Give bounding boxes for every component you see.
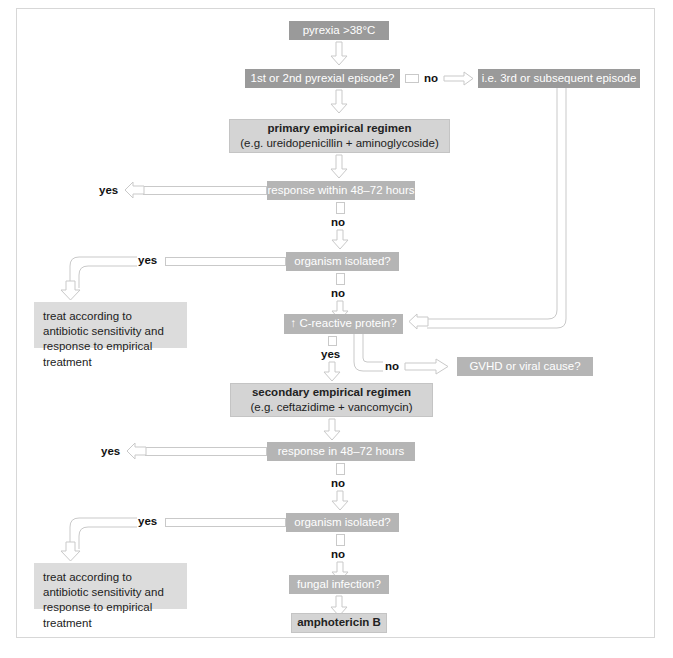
node-treat-second-label: treat according to antibiotic sensitivit… bbox=[43, 570, 178, 631]
label-no-crp: no bbox=[385, 360, 399, 372]
diagram-frame: pyrexia >38°C 1st or 2nd pyrexial episod… bbox=[16, 8, 655, 638]
label-no-organism-first: no bbox=[331, 287, 345, 299]
label-yes-response-second: yes bbox=[101, 445, 120, 457]
connector-stub-no-response-first bbox=[336, 202, 345, 214]
node-episode-question-label: 1st or 2nd pyrexial episode? bbox=[251, 71, 395, 86]
arrow-left-yes-response-first bbox=[125, 182, 145, 199]
label-no-organism-second: no bbox=[331, 548, 345, 560]
arrow-down-no-response-second bbox=[331, 491, 349, 511]
node-primary-regimen-title: primary empirical regimen bbox=[268, 121, 412, 136]
node-secondary-regimen-title: secondary empirical regimen bbox=[252, 385, 411, 400]
arrow-down-treat-first bbox=[61, 281, 81, 301]
node-organism-isolated-second-label: organism isolated? bbox=[294, 515, 391, 530]
connector-stub-yes-crp bbox=[328, 336, 337, 346]
node-pyrexia: pyrexia >38°C bbox=[289, 21, 389, 40]
label-yes-response-first: yes bbox=[99, 184, 118, 196]
arrow-down-pyrexia bbox=[330, 42, 348, 66]
node-amphotericin: amphotericin B bbox=[291, 613, 387, 633]
label-no-response-first: no bbox=[331, 216, 345, 228]
node-episode-question: 1st or 2nd pyrexial episode? bbox=[245, 69, 400, 88]
arrow-down-episode bbox=[330, 90, 348, 114]
arrow-down-secondary-regimen bbox=[323, 419, 341, 441]
arrow-left-into-crp bbox=[409, 314, 429, 330]
node-third-episode: i.e. 3rd or subsequent episode bbox=[478, 69, 640, 88]
node-secondary-regimen: secondary empirical regimen (e.g. ceftaz… bbox=[230, 383, 433, 417]
flowchart-page: pyrexia >38°C 1st or 2nd pyrexial episod… bbox=[0, 0, 673, 658]
node-response-second-label: response in 48–72 hours bbox=[278, 444, 405, 459]
arrow-right-gvhd bbox=[405, 359, 449, 375]
connector-yes-organism-second bbox=[165, 518, 286, 527]
connector-yes-response-second bbox=[145, 447, 267, 456]
node-response-first: response within 48–72 hours bbox=[267, 181, 415, 200]
connector-stub-no-episode bbox=[405, 74, 419, 83]
node-primary-regimen-sub: (e.g. ureidopenicillin + aminoglycoside) bbox=[240, 136, 438, 151]
connector-stub-no-response-second bbox=[336, 463, 345, 475]
node-treat-first-label: treat according to antibiotic sensitivit… bbox=[43, 309, 178, 370]
arrow-down-yes-crp bbox=[323, 362, 341, 382]
node-crp-question-label: ↑ C-reactive protein? bbox=[290, 316, 396, 331]
label-no-episode: no bbox=[424, 72, 438, 84]
node-secondary-regimen-sub: (e.g. ceftazidime + vancomycin) bbox=[250, 400, 412, 415]
node-primary-regimen: primary empirical regimen (e.g. ureidope… bbox=[229, 119, 450, 153]
node-organism-isolated-second: organism isolated? bbox=[286, 513, 399, 532]
node-response-second: response in 48–72 hours bbox=[267, 442, 415, 461]
node-fungal-question: fungal infection? bbox=[289, 575, 389, 594]
node-crp-question: ↑ C-reactive protein? bbox=[284, 314, 403, 334]
node-organism-isolated-first: organism isolated? bbox=[286, 252, 399, 271]
arrow-down-no-response-first bbox=[331, 230, 349, 250]
node-treat-second: treat according to antibiotic sensitivit… bbox=[34, 563, 187, 609]
node-gvhd-question-label: GVHD or viral cause? bbox=[469, 359, 580, 374]
node-fungal-question-label: fungal infection? bbox=[297, 577, 381, 592]
node-pyrexia-label: pyrexia >38°C bbox=[303, 23, 376, 38]
arrow-right-third-episode bbox=[444, 72, 474, 86]
arrow-down-treat-second bbox=[61, 542, 81, 562]
connector-yes-response-first bbox=[143, 186, 267, 195]
label-no-response-second: no bbox=[331, 477, 345, 489]
node-organism-isolated-first-label: organism isolated? bbox=[294, 254, 391, 269]
node-gvhd-question: GVHD or viral cause? bbox=[457, 357, 593, 376]
node-amphotericin-label: amphotericin B bbox=[297, 615, 381, 630]
node-treat-first: treat according to antibiotic sensitivit… bbox=[34, 302, 187, 348]
connector-stub-no-organism-first bbox=[336, 273, 345, 285]
node-response-first-label: response within 48–72 hours bbox=[267, 183, 414, 198]
connector-stub-no-organism-second bbox=[336, 534, 345, 546]
arrow-down-primary-regimen bbox=[330, 155, 348, 179]
label-yes-crp: yes bbox=[321, 348, 340, 360]
connector-yes-organism-first bbox=[165, 257, 286, 266]
arrow-left-yes-response-second bbox=[127, 443, 147, 460]
node-third-episode-label: i.e. 3rd or subsequent episode bbox=[482, 71, 637, 86]
